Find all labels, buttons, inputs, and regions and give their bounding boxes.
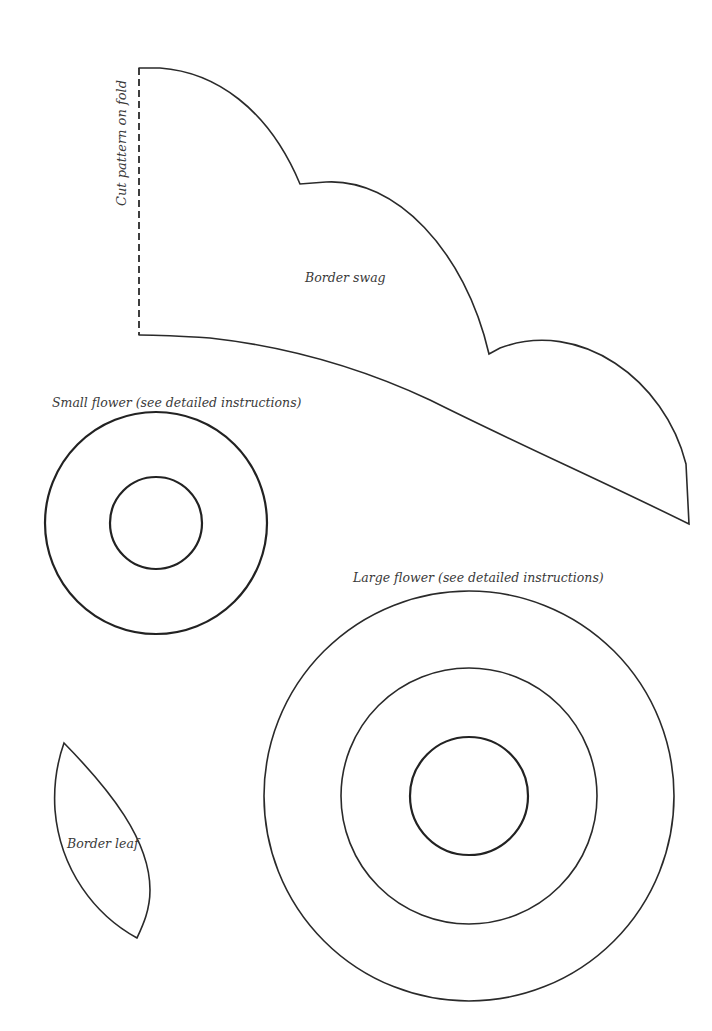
small-flower-inner-ring <box>110 477 202 569</box>
border-swag-shape <box>139 68 689 524</box>
small-flower-label: Small flower (see detailed instructions) <box>52 397 301 410</box>
small-flower-outer-ring <box>45 412 267 634</box>
large-flower-middle-ring <box>341 668 597 924</box>
large-flower-label: Large flower (see detailed instructions) <box>353 572 604 585</box>
large-flower-shape <box>264 591 674 1001</box>
large-flower-inner-ring <box>410 737 528 855</box>
pattern-shapes <box>0 0 712 1031</box>
fold-label: Cut pattern on fold <box>115 80 128 206</box>
border-leaf-label: Border leaf <box>67 838 139 851</box>
small-flower-shape <box>45 412 267 634</box>
border-swag-label: Border swag <box>305 272 386 285</box>
pattern-sheet: Cut pattern on fold Border swag Small fl… <box>0 0 712 1031</box>
large-flower-outer-ring <box>264 591 674 1001</box>
border-swag-outline <box>139 68 689 524</box>
